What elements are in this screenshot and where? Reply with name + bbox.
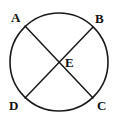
point-label-b: B xyxy=(95,12,104,25)
point-label-d: D xyxy=(9,99,18,112)
point-label-c: C xyxy=(97,99,106,112)
point-label-e: E xyxy=(65,56,74,69)
point-label-a: A xyxy=(11,11,20,24)
geometry-figure: A B D C E xyxy=(0,0,118,125)
